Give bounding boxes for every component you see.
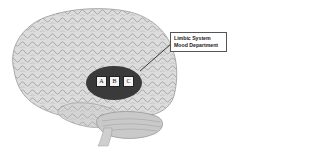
brainstem-shape [98, 128, 112, 146]
callout-line-1: Limbic System [174, 35, 223, 42]
callout-line-2: Mood Department [174, 42, 223, 49]
region-box-b: B [109, 76, 120, 87]
region-box-c-label: C [126, 78, 130, 84]
region-box-c: C [123, 76, 134, 87]
callout-box: Limbic System Mood Department [170, 32, 227, 52]
region-box-a: A [96, 76, 107, 87]
region-box-b-label: B [112, 78, 116, 84]
region-box-a-label: A [99, 78, 103, 84]
